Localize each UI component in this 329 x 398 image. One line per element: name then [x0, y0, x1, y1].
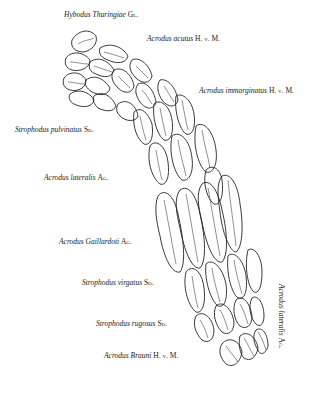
label-strophodus-pulvinatus: Strophodus pulvinatus Sd. — [15, 126, 94, 134]
label-acrodus-brauni: Acrodus Brauni H. v. M. — [104, 352, 178, 360]
label-strophodus-virgatus: Strophodus virgatus Sd. — [82, 279, 154, 287]
teeth-cluster-middle — [134, 95, 223, 204]
label-hybodus-thuringiae: Hybodus Thuringiae Gl. — [64, 11, 138, 19]
teeth-cluster-bottom — [220, 329, 268, 366]
teeth-cluster-long — [156, 175, 242, 272]
teeth-cluster-lower — [185, 249, 264, 341]
label-acrodus-gaillardoti: Acrodus Gaillardoti Ag. — [59, 238, 132, 246]
label-acrodus-immarginatus: Acrodus immarginatus H. v. M. — [199, 87, 294, 95]
label-strophodus-rugosus: Strophodus rugosus Sd. — [96, 320, 167, 328]
label-acrodus-lateralis: Acrodus lateralis Ag. — [44, 174, 108, 182]
vertical-label-acrodus-lateralis: Acrodus lateralis Ag. — [277, 284, 286, 348]
label-acrodus-acutus: Acrodus acutus H. v. M. — [147, 35, 220, 43]
teeth-cluster-upper — [63, 31, 178, 120]
